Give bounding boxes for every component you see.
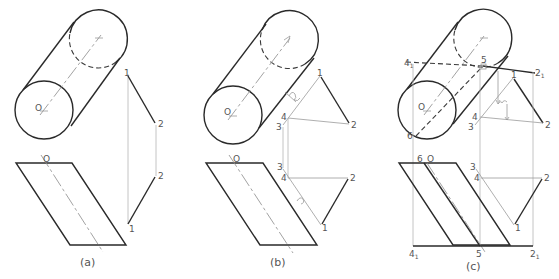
cylinder-view-b: O xyxy=(204,11,318,144)
cylinder-top-view xyxy=(206,163,317,245)
label-5: 5 xyxy=(481,55,487,65)
label-6: 6 xyxy=(417,154,423,164)
label-4: 4 xyxy=(474,173,480,183)
edge-3-1-top xyxy=(283,169,321,225)
edge-1-2 xyxy=(321,77,349,123)
label-center-O: O xyxy=(418,102,425,112)
cylinder-edge-top xyxy=(23,22,74,90)
label-3: 3 xyxy=(276,122,282,132)
cylinder-view-c: O 6 xyxy=(398,9,512,141)
label-O: O xyxy=(233,154,240,164)
label-1: 1 xyxy=(511,70,517,80)
label-1: 1 xyxy=(317,68,323,78)
plane-edge-hidden xyxy=(406,62,483,66)
label-3: 3 xyxy=(468,122,474,132)
figure-canvas: O 1 2 2 1 O (a) O xyxy=(0,0,559,279)
label-3: 3 xyxy=(277,162,283,172)
label-1: 1 xyxy=(124,68,130,78)
label-2: 2 xyxy=(544,173,550,183)
label-2: 2 xyxy=(350,173,356,183)
back-circle-hidden xyxy=(69,33,116,68)
label-2: 2 xyxy=(158,119,164,129)
cylinder-edge-top xyxy=(213,24,266,94)
edge-1-2-front xyxy=(128,76,155,123)
label-6: 6 xyxy=(407,131,413,141)
edge-1-2-top xyxy=(515,179,542,224)
back-circle-visible xyxy=(262,11,318,64)
axis-line xyxy=(228,38,290,120)
edge-3-1 xyxy=(283,76,320,125)
label-center-O: O xyxy=(224,107,231,117)
panel-b: O 1 2 4 3 3 4 2 1 O (b) xyxy=(204,11,357,269)
label-1: 1 xyxy=(129,224,135,234)
label-2: 2 xyxy=(158,171,164,181)
label-2-1: 21 xyxy=(535,68,545,79)
edge-1-2-top xyxy=(322,179,348,224)
label-center-O: O xyxy=(35,103,42,113)
label-4: 4 xyxy=(472,112,478,122)
edge-4-2 xyxy=(480,117,543,123)
break-symbol xyxy=(297,198,304,204)
cylinder-edge-bottom xyxy=(71,58,120,126)
plane-edge-visible xyxy=(483,66,535,73)
caption-b: (b) xyxy=(270,256,286,269)
label-4: 4 xyxy=(281,112,287,122)
caption-a: (a) xyxy=(80,256,95,269)
panel-c: O 6 41 5 21 1 2 4 3 3 4 2 xyxy=(398,9,551,273)
label-4-1: 41 xyxy=(409,249,419,260)
back-circle-visible xyxy=(70,10,127,62)
back-circle-hidden xyxy=(454,30,498,67)
label-2: 2 xyxy=(545,120,551,130)
label-2-1: 21 xyxy=(530,249,540,260)
cylinder-edge-top xyxy=(407,22,458,89)
label-3: 3 xyxy=(470,162,476,172)
label-2: 2 xyxy=(351,120,357,130)
label-1: 1 xyxy=(322,223,328,233)
axis-line xyxy=(424,36,484,115)
caption-c: (c) xyxy=(466,260,481,273)
cylinder-top-view xyxy=(399,163,510,245)
edge-1-2-top xyxy=(128,177,155,224)
label-5: 5 xyxy=(476,249,482,259)
label-O: O xyxy=(427,154,434,164)
cylinder-top-view xyxy=(16,163,126,245)
element-line-6-5-top xyxy=(424,163,480,246)
label-4-1: 41 xyxy=(404,58,414,69)
break-symbol xyxy=(289,92,300,100)
technical-drawing: O 1 2 2 1 O (a) O xyxy=(0,0,559,279)
label-1: 1 xyxy=(515,223,521,233)
edge-1-2 xyxy=(514,79,543,123)
axis-line-top-view xyxy=(41,155,103,252)
label-4: 4 xyxy=(281,173,287,183)
edge-3-1-top xyxy=(476,169,514,225)
label-O: O xyxy=(43,154,50,164)
cylinder-view-a: O xyxy=(15,10,127,139)
back-circle-hidden xyxy=(260,30,305,69)
edge-4-2 xyxy=(288,118,349,124)
front-circle xyxy=(204,86,262,144)
panel-a: O 1 2 2 1 O (a) xyxy=(15,10,164,269)
